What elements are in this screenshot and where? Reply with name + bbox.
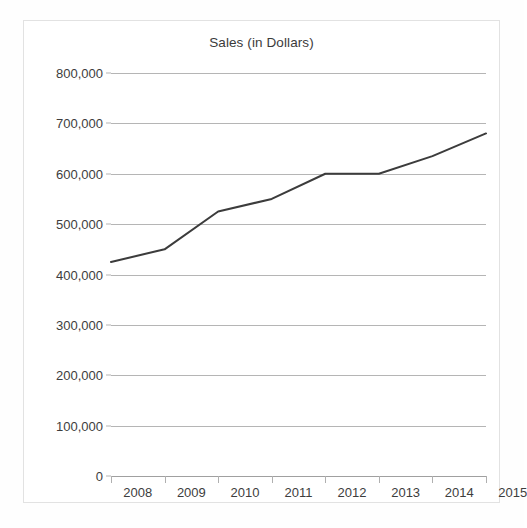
- series-polyline: [111, 133, 486, 261]
- plot-area: 0100,000200,000300,000400,000500,000600,…: [111, 73, 486, 476]
- y-axis-label: 500,000: [56, 217, 103, 232]
- x-axis-label: 2013: [391, 485, 420, 500]
- y-axis-label: 0: [96, 469, 103, 484]
- y-axis-label: 100,000: [56, 418, 103, 433]
- x-axis-label: 2014: [445, 485, 474, 500]
- x-axis-tick: [486, 476, 487, 483]
- y-axis-label: 800,000: [56, 66, 103, 81]
- x-axis-label: 2011: [285, 485, 313, 500]
- x-axis-label: 2010: [230, 485, 259, 500]
- x-axis-tick: [325, 476, 326, 483]
- y-axis-label: 200,000: [56, 368, 103, 383]
- x-axis-tick: [379, 476, 380, 483]
- chart-title: Sales (in Dollars): [24, 35, 499, 50]
- chart-frame: Sales (in Dollars) 0100,000200,000300,00…: [23, 20, 500, 503]
- x-axis-label: 2012: [338, 485, 367, 500]
- x-axis-tick: [165, 476, 166, 483]
- x-axis-tick: [432, 476, 433, 483]
- y-axis-label: 700,000: [56, 116, 103, 131]
- sales-line-series: [111, 73, 486, 476]
- gridline: [111, 476, 486, 477]
- x-axis-tick: [218, 476, 219, 483]
- x-axis-label: 2008: [123, 485, 152, 500]
- y-axis-label: 600,000: [56, 166, 103, 181]
- y-axis-label: 300,000: [56, 317, 103, 332]
- x-axis-tick: [272, 476, 273, 483]
- x-axis-label: 2015: [498, 485, 527, 500]
- y-axis-label: 400,000: [56, 267, 103, 282]
- x-axis-label: 2009: [177, 485, 206, 500]
- x-axis-tick: [111, 476, 112, 483]
